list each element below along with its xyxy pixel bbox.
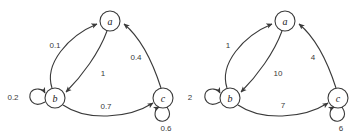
node-b-label: b bbox=[53, 93, 58, 104]
self-loop-c bbox=[155, 107, 169, 121]
edge-weight-c-a: 4 bbox=[311, 53, 316, 62]
node-b-label: b bbox=[228, 93, 233, 104]
edge-weight-b-a: 0.1 bbox=[49, 41, 61, 50]
edge-weight-c-c: 6 bbox=[339, 124, 344, 133]
self-loop-b bbox=[30, 89, 45, 104]
edge-weight-b-a: 1 bbox=[226, 41, 231, 50]
edge-weight-b-b: 2 bbox=[188, 93, 193, 102]
node-a-label: a bbox=[283, 16, 288, 27]
graph-canvas: a b c 0.1 1 0.4 0.7 0.2 0.6 bbox=[0, 0, 359, 136]
edge-b-to-a bbox=[225, 24, 272, 88]
self-loop-b bbox=[205, 89, 220, 104]
graph-figure: a b c 0.1 1 0.4 0.7 0.2 0.6 bbox=[0, 0, 359, 136]
edge-b-to-a bbox=[50, 24, 97, 88]
edge-weight-b-b: 0.2 bbox=[7, 93, 19, 102]
right-graph: a b c 1 10 4 7 2 6 bbox=[188, 11, 348, 133]
self-loop-c bbox=[330, 107, 344, 121]
edge-weight-a-b: 1 bbox=[101, 69, 106, 78]
edge-weight-c-c: 0.6 bbox=[160, 124, 172, 133]
edge-weight-c-a: 0.4 bbox=[130, 53, 142, 62]
edge-c-to-a bbox=[299, 24, 336, 88]
node-a-label: a bbox=[108, 16, 113, 27]
edge-a-to-b bbox=[241, 31, 282, 92]
edge-a-to-b bbox=[66, 31, 107, 92]
edge-weight-b-c: 7 bbox=[281, 101, 286, 110]
edge-weight-a-b: 10 bbox=[274, 69, 283, 78]
node-c-label: c bbox=[161, 93, 166, 104]
edge-weight-b-c: 0.7 bbox=[100, 102, 112, 111]
node-c-label: c bbox=[336, 93, 341, 104]
left-graph: a b c 0.1 1 0.4 0.7 0.2 0.6 bbox=[7, 11, 173, 133]
